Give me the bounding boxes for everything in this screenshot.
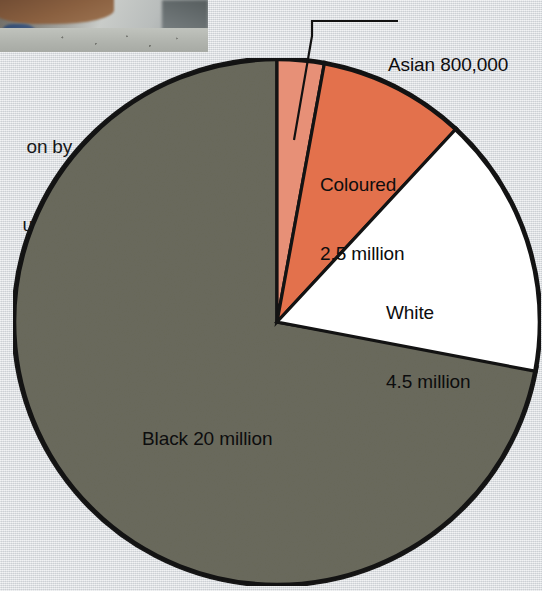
pie-label-coloured-line-1: Coloured (320, 173, 404, 196)
pie-label-asian-line-1: Asian 800,000 (388, 53, 508, 76)
pie-label-asian: Asian 800,000 (388, 7, 508, 99)
pie-label-black-line-1: Black 20 million (142, 427, 272, 450)
pie-label-coloured-line-2: 2.5 million (320, 242, 404, 265)
photograph-fragment (0, 0, 208, 52)
pie-label-white-line-2: 4.5 million (386, 370, 470, 393)
pie-label-coloured: Coloured 2.5 million (320, 127, 404, 288)
pie-label-black: Black 20 million (142, 381, 272, 473)
photo-texture (0, 0, 208, 52)
pie-label-white-line-1: White (386, 301, 470, 324)
